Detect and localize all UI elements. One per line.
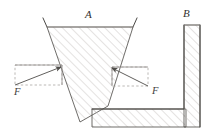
block-b-base-slab — [92, 109, 186, 127]
figure-canvas: F F A B — [0, 0, 207, 130]
block-b-vertical-column — [184, 25, 200, 127]
left-force-label: F — [13, 86, 21, 97]
wedge-a-left-edge-upper — [43, 18, 47, 27]
block-b-label: B — [183, 7, 190, 19]
wedge-a-right-edge-upper — [133, 18, 137, 27]
left-force-vector — [15, 67, 61, 85]
wedge-a-label: A — [84, 8, 92, 20]
right-force-label: F — [151, 85, 159, 96]
wedge-a-group — [43, 18, 137, 122]
right-force-group: F — [112, 67, 159, 96]
mechanics-figure: F F A B — [0, 0, 207, 130]
wedge-a-body — [47, 27, 133, 122]
left-force-group: F — [13, 65, 62, 97]
